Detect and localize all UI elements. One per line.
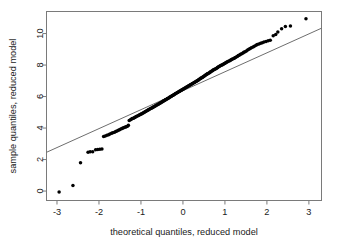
x-tick-label: 1 [222,207,227,217]
data-point [100,147,104,151]
x-tick-label: 3 [306,207,311,217]
data-point [127,123,131,127]
data-point [289,24,293,28]
x-tick-label: 2 [264,207,269,217]
data-point [71,184,75,188]
y-tick-label: 10 [35,28,45,38]
x-tick-label: -1 [137,207,145,217]
data-point [280,27,284,31]
data-point [91,150,95,154]
data-point [284,25,288,29]
y-tick-label: 2 [35,157,45,162]
data-point [79,161,83,165]
y-tick-label: 8 [35,62,45,67]
y-tick-label: 6 [35,94,45,99]
qq-plot-canvas: -3-2-10123 0246810 theoretical quantiles… [0,0,342,242]
data-point [269,38,273,42]
x-tick-label: -2 [95,207,103,217]
y-tick-label: 4 [35,125,45,130]
data-point [57,190,61,194]
y-tick-label: 0 [35,188,45,193]
data-point [304,17,308,21]
x-tick-label: 0 [180,207,185,217]
y-axis-title: sample quantiles, reduced model [8,39,18,174]
data-point [276,30,280,34]
figure-background [0,0,342,242]
x-axis-title: theoretical quantiles, reduced model [110,227,258,237]
qq-plot-figure: -3-2-10123 0246810 theoretical quantiles… [0,0,342,242]
x-tick-label: -3 [53,207,61,217]
